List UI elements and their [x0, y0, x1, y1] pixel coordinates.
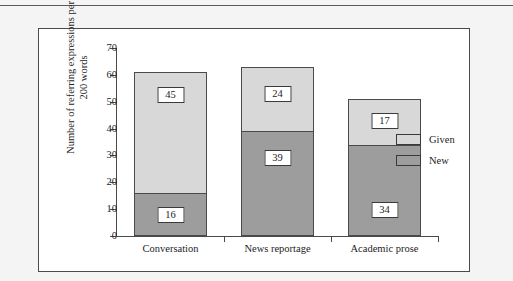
bar-value-label: 39 — [264, 150, 291, 166]
y-tick-40: 40 — [79, 124, 117, 134]
legend-label-given: Given — [429, 134, 455, 145]
bar-value-label: 45 — [157, 87, 184, 103]
figure-frame: Number of referring expressions per 200 … — [38, 28, 470, 272]
y-tick-50: 50 — [79, 97, 117, 107]
y-tick-label: 10 — [95, 204, 117, 214]
legend-swatch-given — [396, 134, 421, 145]
bar-segment-given: 45 — [134, 72, 207, 193]
figure-page: Number of referring expressions per 200 … — [0, 0, 513, 281]
plot-area: Number of referring expressions per 200 … — [39, 29, 471, 273]
bar-segment-new: 39 — [241, 131, 314, 236]
y-tick-20: 20 — [79, 177, 117, 187]
x-axis-line — [116, 236, 439, 237]
bar-segment-given: 24 — [241, 67, 314, 132]
bar-segment-new: 16 — [134, 193, 207, 236]
y-tick-label: 0 — [95, 231, 117, 241]
x-tick-divider — [224, 236, 225, 242]
legend-item-new: New — [396, 152, 455, 169]
y-tick-label: 50 — [95, 97, 117, 107]
legend-swatch-new — [396, 155, 421, 166]
legend-label-new: New — [429, 155, 449, 166]
bar-value-label: 16 — [157, 207, 184, 223]
bar-value-label: 34 — [371, 202, 398, 218]
x-category-label-conversation: Conversation — [117, 243, 224, 255]
y-tick-label: 40 — [95, 124, 117, 134]
y-tick-60: 60 — [79, 70, 117, 80]
y-tick-label: 30 — [95, 150, 117, 160]
legend-item-given: Given — [396, 131, 455, 148]
bar-value-label: 17 — [371, 113, 398, 129]
bar-group-conversation: 45 16 — [134, 72, 207, 236]
y-tick-label: 60 — [95, 70, 117, 80]
y-tick-10: 10 — [79, 204, 117, 214]
y-tick-30: 30 — [79, 150, 117, 160]
x-tick-divider — [331, 236, 332, 242]
y-tick-label: 70 — [95, 43, 117, 53]
x-category-label-news-reportage: News reportage — [224, 243, 331, 255]
bar-group-news-reportage: 24 39 — [241, 67, 314, 236]
y-tick-0: 0 — [79, 231, 117, 241]
x-category-label-academic-prose: Academic prose — [331, 243, 438, 255]
bar-value-label: 24 — [264, 86, 291, 102]
y-tick-label: 20 — [95, 177, 117, 187]
x-tick-divider — [438, 236, 439, 242]
legend: Given New — [396, 131, 455, 173]
y-tick-70: 70 — [79, 43, 117, 53]
